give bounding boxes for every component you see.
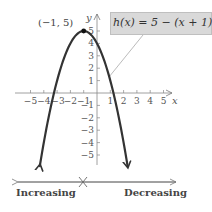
vertex-label: (−1, 5) [38,17,73,28]
svg-text:−2: −2 [64,96,77,106]
decreasing-label: Decreasing [124,187,187,198]
equation-label: h(x) = 5 − (x + 1)2 [113,15,212,29]
svg-text:−4: −4 [81,138,95,148]
increasing-label: Increasing [16,187,76,198]
x-tick-labels: −5 −4 −3 −2 −1 1 2 3 4 5 [24,96,167,106]
svg-text:−4: −4 [37,96,51,106]
svg-text:−5: −5 [24,96,38,106]
y-axis-label: y [85,12,92,23]
svg-text:2: 2 [88,63,94,73]
svg-text:1: 1 [88,76,94,86]
svg-text:5: 5 [161,96,167,106]
svg-text:3: 3 [88,51,94,61]
vertex-point [81,29,86,34]
svg-text:4: 4 [88,38,94,48]
svg-text:−1: −1 [81,100,94,110]
svg-text:3: 3 [134,96,140,106]
svg-text:1: 1 [107,96,113,106]
x-axis-label: x [172,95,178,106]
svg-text:2: 2 [121,96,127,106]
equation-leader-line [109,35,143,77]
svg-text:−3: −3 [81,125,95,135]
svg-text:−2: −2 [81,113,94,123]
svg-text:−5: −5 [81,150,95,160]
svg-text:4: 4 [147,96,153,106]
